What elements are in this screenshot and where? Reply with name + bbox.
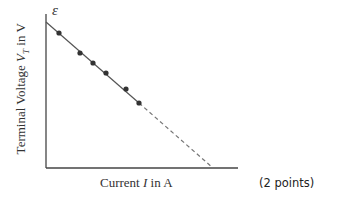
y-axis-label: Terminal Voltage VT in V — [13, 9, 31, 169]
emf-label: ε — [52, 2, 58, 19]
data-point — [123, 86, 128, 91]
points-label: (2 points) — [259, 176, 314, 190]
graph-canvas — [0, 0, 340, 201]
data-point — [56, 30, 61, 35]
data-point — [136, 100, 141, 105]
data-point — [103, 70, 108, 75]
fit-line-dashed — [139, 103, 213, 168]
data-point — [90, 60, 95, 65]
data-point — [77, 50, 82, 55]
x-axis-label: Current I in A — [100, 175, 173, 191]
